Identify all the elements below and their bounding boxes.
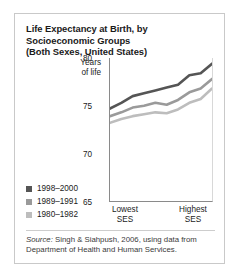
x-axis-label-lowest: Lowest SES xyxy=(95,205,155,225)
line-series-1989–1991 xyxy=(110,79,212,116)
x-axis-label-highest: Highest SES xyxy=(163,205,223,225)
y-tick-80: 80 xyxy=(83,54,92,63)
source-divider xyxy=(26,230,215,231)
chart-title-line-2: Socioeconomic Groups xyxy=(26,35,218,47)
legend-item-1[interactable]: 1989–1991 xyxy=(26,195,78,208)
x-axis-label-lowest-line-2: SES xyxy=(95,215,155,225)
source-label: Source: xyxy=(26,235,53,244)
y-tick-75: 75 xyxy=(83,102,92,111)
y-tick-70: 70 xyxy=(83,150,92,159)
legend-item-2[interactable]: 1980–1982 xyxy=(26,208,78,221)
legend-swatch-icon xyxy=(26,199,32,205)
line-series-group xyxy=(110,58,212,201)
line-series-1980–1982 xyxy=(110,89,212,123)
chart-title: Life Expectancy at Birth, by Socioeconom… xyxy=(26,23,218,58)
chart-title-line-1: Life Expectancy at Birth, by xyxy=(26,23,218,35)
line-series-1998–2000 xyxy=(110,64,212,109)
source-note: Source: Singh & Siahpush, 2006, using da… xyxy=(26,235,216,255)
plot-frame xyxy=(109,58,213,202)
legend-swatch-icon xyxy=(26,186,32,192)
x-axis-label-highest-line-2: SES xyxy=(163,215,223,225)
legend-label: 1989–1991 xyxy=(37,197,78,206)
chart-title-line-3: (Both Sexes, United States) xyxy=(26,46,218,58)
legend-swatch-icon xyxy=(26,212,32,218)
chart-card: Life Expectancy at Birth, by Socioeconom… xyxy=(14,13,225,264)
legend-label: 1980–1982 xyxy=(37,210,78,219)
legend-item-0[interactable]: 1998–2000 xyxy=(26,182,78,195)
y-tick-65: 65 xyxy=(83,198,92,207)
chart-legend: 1998–20001989–19911980–1982 xyxy=(26,182,78,221)
legend-label: 1998–2000 xyxy=(37,184,78,193)
plot-area: 80757065 xyxy=(95,58,213,202)
x-axis-label-lowest-line-1: Lowest xyxy=(95,205,155,215)
x-axis-label-highest-line-1: Highest xyxy=(163,205,223,215)
